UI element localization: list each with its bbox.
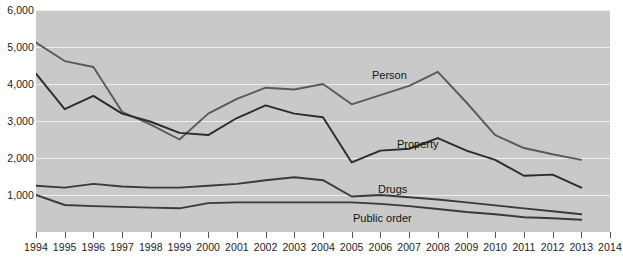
y-tick-label: 1,000 — [7, 189, 34, 201]
x-tick-label: 2012 — [541, 241, 565, 253]
x-tick-label: 1998 — [139, 241, 163, 253]
x-tick-label: 1995 — [53, 241, 77, 253]
x-tick-label: 1997 — [110, 241, 134, 253]
x-tick-label: 2002 — [254, 241, 278, 253]
series-label-person: Person — [372, 69, 407, 81]
x-tick — [610, 232, 611, 238]
line-chart: 1,0002,0003,0004,0005,0006,000 199419951… — [0, 0, 623, 269]
x-tick — [294, 232, 295, 238]
series-line-person — [36, 43, 581, 160]
x-tick — [93, 232, 94, 238]
x-tick-label: 2007 — [397, 241, 421, 253]
x-tick-label: 2013 — [569, 241, 593, 253]
series-label-public-order: Public order — [353, 212, 412, 224]
x-tick-label: 2010 — [483, 241, 507, 253]
x-tick — [352, 232, 353, 238]
x-tick — [409, 232, 410, 238]
x-tick — [495, 232, 496, 238]
x-axis: 1994199519961997199819992000200120022003… — [36, 232, 610, 269]
series-line-drugs — [36, 177, 581, 214]
x-tick — [553, 232, 554, 238]
x-tick-label: 2003 — [282, 241, 306, 253]
y-tick-label: 5,000 — [7, 41, 34, 53]
x-tick — [151, 232, 152, 238]
x-tick-label: 1994 — [24, 241, 48, 253]
x-tick — [380, 232, 381, 238]
x-tick — [65, 232, 66, 238]
series-label-property: Property — [397, 138, 439, 150]
x-tick — [180, 232, 181, 238]
x-tick-label: 2000 — [196, 241, 220, 253]
x-tick — [438, 232, 439, 238]
x-tick-label: 1999 — [168, 241, 192, 253]
x-tick — [581, 232, 582, 238]
y-tick-label: 3,000 — [7, 115, 34, 127]
x-tick-label: 2005 — [340, 241, 364, 253]
x-tick-label: 2001 — [225, 241, 249, 253]
plot-svg — [36, 10, 610, 232]
x-tick — [237, 232, 238, 238]
y-tick-label: 2,000 — [7, 152, 34, 164]
x-tick-label: 2009 — [455, 241, 479, 253]
series-label-drugs: Drugs — [378, 183, 407, 195]
x-tick-label: 1996 — [82, 241, 106, 253]
x-tick-label: 2008 — [426, 241, 450, 253]
y-tick-label: 6,000 — [7, 4, 34, 16]
x-tick-label: 2014 — [598, 241, 622, 253]
y-axis: 1,0002,0003,0004,0005,0006,000 — [0, 0, 34, 240]
y-tick-label: 4,000 — [7, 78, 34, 90]
x-tick — [467, 232, 468, 238]
x-tick — [36, 232, 37, 238]
x-tick — [122, 232, 123, 238]
x-tick-label: 2004 — [311, 241, 335, 253]
series-line-public-order — [36, 195, 581, 220]
x-tick — [208, 232, 209, 238]
x-tick — [323, 232, 324, 238]
x-tick-label: 2011 — [512, 241, 535, 253]
series-line-property — [36, 74, 581, 188]
plot-area — [36, 10, 610, 232]
x-tick — [266, 232, 267, 238]
x-tick — [524, 232, 525, 238]
x-tick-label: 2006 — [369, 241, 393, 253]
